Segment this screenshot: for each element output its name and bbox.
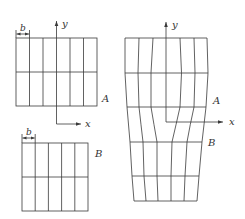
deformation-diagram: y b A x b B [0, 0, 245, 219]
y-axis-label-right: y [171, 19, 178, 30]
region-label-a-right: A [212, 95, 220, 106]
dimension-label-b-b: b [26, 127, 32, 137]
left-grid-b [22, 143, 88, 211]
region-label-a-left: A [101, 93, 109, 104]
dimension-label-b-a: b [20, 23, 26, 33]
region-label-b-right: B [207, 137, 215, 148]
x-axis-label-left: x [85, 118, 91, 129]
region-label-b-left: B [94, 148, 102, 159]
right-deformed-grid [125, 38, 208, 201]
y-axis-label-left: y [61, 18, 68, 29]
x-axis-left [57, 108, 82, 124]
x-axis-label-right: x [229, 116, 235, 127]
